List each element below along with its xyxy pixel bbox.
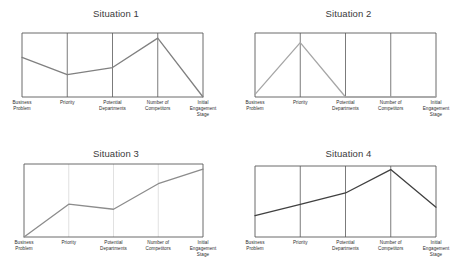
line-chart-situation-4 [232,140,465,279]
chart-grid: Situation 1 Business ProblemPriorityPote… [0,0,465,279]
line-chart-situation-3 [0,140,232,279]
chart-panel-situation-4: Situation 4 Business ProblemPriorityPote… [232,140,465,279]
chart-panel-situation-2: Situation 2 Business ProblemPriorityPote… [232,0,465,140]
chart-panel-situation-3: Situation 3 Business ProblemPriorityPote… [0,140,232,279]
line-chart-situation-2 [232,0,465,140]
line-chart-situation-1 [0,0,232,140]
chart-panel-situation-1: Situation 1 Business ProblemPriorityPote… [0,0,232,140]
